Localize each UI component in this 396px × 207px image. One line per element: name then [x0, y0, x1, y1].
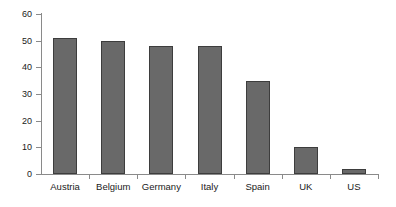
y-tick-label: 60 [0, 9, 32, 19]
bar-uk [294, 147, 318, 174]
bar-germany [149, 46, 173, 174]
y-tick-label: 0 [0, 169, 32, 179]
x-tick-mark [234, 175, 235, 179]
x-tick-mark [330, 175, 331, 179]
y-tick-label: 40 [0, 62, 32, 72]
x-tick-mark [378, 175, 379, 179]
x-tick-mark [282, 175, 283, 179]
x-axis-label: Belgium [89, 182, 137, 192]
x-axis-label: US [330, 182, 378, 192]
bar-italy [198, 46, 222, 174]
x-axis-label: Austria [41, 182, 89, 192]
x-axis-label: Italy [185, 182, 233, 192]
x-axis-label: Spain [234, 182, 282, 192]
bar-chart-figure: 0102030405060 AustriaBelgiumGermanyItaly… [0, 0, 396, 207]
y-tick-mark [36, 174, 41, 175]
bar-belgium [101, 41, 125, 174]
x-tick-mark [137, 175, 138, 179]
y-tick-label: 50 [0, 36, 32, 46]
x-axis-label: UK [282, 182, 330, 192]
y-tick-label: 20 [0, 116, 32, 126]
y-tick-label: 10 [0, 142, 32, 152]
bar-spain [246, 81, 270, 174]
y-tick-label: 30 [0, 89, 32, 99]
x-tick-mark [89, 175, 90, 179]
x-axis-label: Germany [137, 182, 185, 192]
bars-layer [41, 14, 378, 174]
x-tick-mark [185, 175, 186, 179]
x-axis-line [41, 174, 379, 175]
bar-us [342, 169, 366, 174]
bar-austria [53, 38, 77, 174]
